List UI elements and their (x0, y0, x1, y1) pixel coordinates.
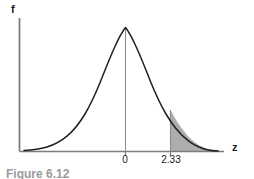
normal-distribution-figure: f z 0 2.33 Figure 6.12 (0, 0, 254, 179)
x-axis-label: z (232, 142, 238, 153)
distribution-plot (0, 0, 254, 179)
figure-caption: Figure 6.12 (6, 169, 246, 179)
tick-label-zero: 0 (122, 155, 128, 165)
tick-label-critical-value: 2.33 (161, 155, 180, 165)
figure-caption-text: Figure 6.12 (6, 169, 69, 179)
y-axis-label: f (11, 4, 15, 15)
normal-curve (24, 28, 218, 152)
